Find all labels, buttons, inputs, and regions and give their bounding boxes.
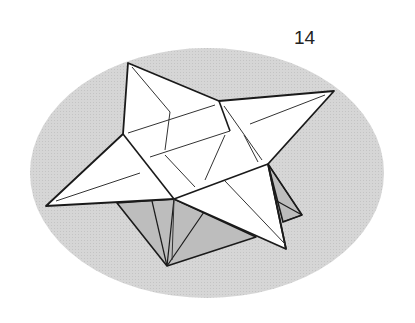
diagram-canvas: 14 <box>0 0 415 323</box>
origami-diagram <box>0 0 415 323</box>
step-number: 14 <box>294 27 315 49</box>
